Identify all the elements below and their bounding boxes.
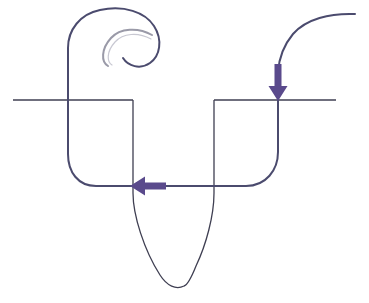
wound-outline-group xyxy=(133,100,214,288)
arrow-down-entry-icon xyxy=(269,64,288,101)
curved-surgical-needle-group xyxy=(103,30,152,66)
suture-thread-group xyxy=(68,8,355,186)
diagram-canvas xyxy=(0,0,369,303)
wound-left-wall xyxy=(133,100,184,288)
suture-thread-deep-run xyxy=(68,100,278,186)
curved-surgical-needle-highlight xyxy=(108,34,151,65)
wound-right-wall xyxy=(184,100,214,286)
direction-arrows-group xyxy=(130,64,288,196)
arrow-left-pull-icon xyxy=(130,177,166,196)
suture-diagram-figure: Suture placement in a V-shaped wound nee… xyxy=(0,0,369,303)
suture-thread-right-tail xyxy=(278,14,355,100)
suture-thread-left-rise xyxy=(68,8,159,100)
